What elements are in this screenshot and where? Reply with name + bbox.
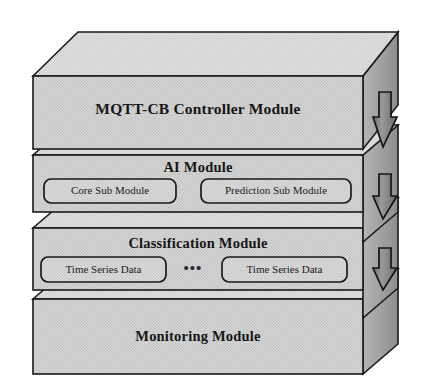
- sub-module-time-series-data-right[interactable]: Time Series Data: [222, 257, 347, 282]
- monitoring-module-title: Monitoring Module: [135, 328, 261, 344]
- architecture-diagram: Monitoring Module Classification Module …: [0, 0, 430, 388]
- time-series-data-right-label: Time Series Data: [247, 263, 323, 275]
- classification-module-title: Classification Module: [128, 235, 267, 251]
- time-series-data-left-label: Time Series Data: [66, 263, 142, 275]
- controller-module-title: MQTT-CB Controller Module: [95, 100, 300, 117]
- prediction-sub-module-label: Prediction Sub Module: [225, 184, 327, 196]
- core-sub-module-label: Core Sub Module: [71, 184, 149, 196]
- ai-module-title: AI Module: [163, 159, 232, 175]
- sub-module-core[interactable]: Core Sub Module: [44, 179, 176, 203]
- layered-stack-svg: Monitoring Module Classification Module …: [0, 0, 430, 388]
- layer-mqtt-cb-controller-module: MQTT-CB Controller Module: [33, 32, 398, 149]
- controller-module-top-face: [33, 32, 398, 76]
- sub-module-prediction[interactable]: Prediction Sub Module: [201, 179, 351, 203]
- classification-ellipsis-separator: •••: [184, 260, 203, 276]
- sub-module-time-series-data-left[interactable]: Time Series Data: [41, 257, 166, 282]
